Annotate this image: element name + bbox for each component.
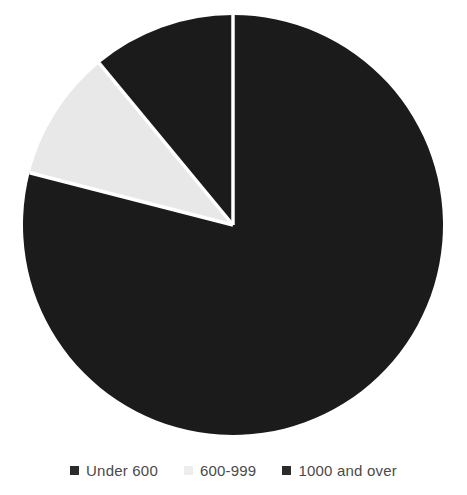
- legend-label-1000-and-over: 1000 and over: [298, 463, 397, 478]
- legend-swatch-icon-600-999: [184, 466, 193, 475]
- legend-swatch-icon-1000-and-over: [282, 466, 291, 475]
- legend-swatch-icon-under-600: [70, 466, 79, 475]
- legend-item-600-999[interactable]: 600-999: [184, 463, 256, 478]
- legend-item-under-600[interactable]: Under 600: [70, 463, 158, 478]
- pie-plot-area: [0, 0, 467, 440]
- chart-legend: Under 600 600-999 1000 and over: [0, 452, 467, 488]
- legend-item-1000-and-over[interactable]: 1000 and over: [282, 463, 397, 478]
- pie-svg: [0, 0, 467, 440]
- legend-label-600-999: 600-999: [200, 463, 256, 478]
- pie-chart: Under 600 600-999 1000 and over: [0, 0, 467, 495]
- legend-label-under-600: Under 600: [86, 463, 158, 478]
